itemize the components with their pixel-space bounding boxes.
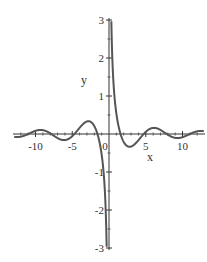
axes: -10-50510 -3-2-1123 x y [13, 14, 205, 254]
y-tick-label: 1 [99, 90, 105, 102]
function-plot: -10-50510 -3-2-1123 x y [0, 0, 207, 262]
x-axis-label: x [147, 150, 153, 164]
y-tick-label: 3 [99, 14, 105, 26]
y-tick-label: 2 [99, 52, 105, 64]
y-axis-label: y [81, 73, 87, 87]
curve-positive-branch [111, 21, 203, 147]
x-tick-label: -10 [28, 140, 43, 152]
x-tick-label: -5 [68, 140, 78, 152]
x-tick-label: 10 [177, 140, 189, 152]
y-tick-label: -3 [95, 242, 105, 254]
y-tick-label: -2 [95, 204, 104, 216]
x-tick-label: 0 [102, 140, 108, 152]
